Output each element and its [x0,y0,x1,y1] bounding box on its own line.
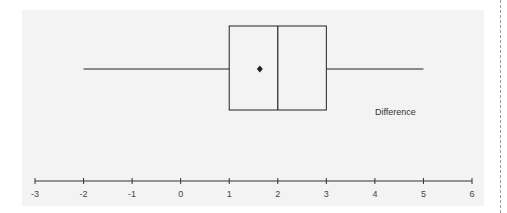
x-tick-label: 1 [227,189,232,199]
x-tick-label: 0 [178,189,183,199]
x-tick-label: -2 [80,189,88,199]
x-tick-label: -3 [31,189,39,199]
x-tick-label: 4 [372,189,377,199]
x-tick-label: 3 [324,189,329,199]
mean-marker-icon [257,66,263,73]
series-label: Difference [375,107,416,117]
boxplot-chart: -3-2-10123456Difference [0,0,507,213]
x-tick-label: 2 [275,189,280,199]
x-tick-label: 5 [421,189,426,199]
x-tick-label: 6 [469,189,474,199]
x-tick-label: -1 [128,189,136,199]
